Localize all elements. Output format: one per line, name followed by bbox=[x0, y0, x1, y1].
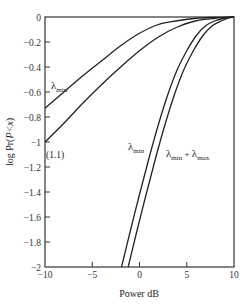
y-tick-label: −1.8 bbox=[24, 238, 41, 248]
y-tick-label: −0.8 bbox=[24, 113, 41, 123]
y-tick-label: −0.4 bbox=[24, 63, 41, 73]
chart-canvas: −10−505100−0.2−0.4−0.6−0.8−1−1.2−1.4−1.6… bbox=[0, 0, 252, 304]
y-axis-label-var: P<x bbox=[4, 121, 15, 140]
subscript-max: max bbox=[197, 154, 210, 162]
subscript-min: min bbox=[171, 154, 182, 162]
y-tick-label: −2 bbox=[31, 263, 41, 273]
curve-2 bbox=[122, 17, 234, 267]
subscript-min: min bbox=[56, 86, 67, 94]
curve-group bbox=[45, 17, 234, 267]
curve-0 bbox=[45, 17, 234, 108]
plus-sign: + bbox=[182, 149, 192, 159]
y-tick-label: −0.6 bbox=[24, 88, 41, 98]
y-tick-label: −0.2 bbox=[24, 38, 41, 48]
plot-frame bbox=[45, 17, 234, 267]
x-tick-label: 10 bbox=[229, 270, 239, 280]
annotation-lambda-min-upper: λmin bbox=[51, 79, 68, 94]
x-tick-label: −5 bbox=[87, 270, 97, 280]
subscript-min: min bbox=[133, 147, 144, 155]
y-tick-label: −1.6 bbox=[24, 213, 41, 223]
x-axis-label: Power dB bbox=[119, 288, 159, 299]
annotation-lambda-min-steep: λmin bbox=[128, 140, 145, 155]
y-axis-label: log Pr(P<x) bbox=[4, 118, 16, 166]
y-axis-label-prefix: log Pr( bbox=[4, 138, 16, 166]
curve-3 bbox=[128, 17, 234, 267]
annotation-equation-ref: (1.1) bbox=[46, 150, 64, 161]
y-tick-label: −1.4 bbox=[24, 188, 41, 198]
y-axis-label-suffix: ) bbox=[4, 118, 16, 121]
x-tick-label: 5 bbox=[184, 270, 189, 280]
y-tick-label: 0 bbox=[36, 13, 41, 23]
y-tick-label: −1.2 bbox=[24, 163, 41, 173]
y-tick-label: −1 bbox=[31, 138, 41, 148]
curve-1 bbox=[45, 17, 234, 142]
annotation-lambda-sum: λmin + λmax bbox=[166, 147, 210, 162]
plot-border bbox=[45, 17, 234, 267]
x-tick-label: 0 bbox=[137, 270, 142, 280]
